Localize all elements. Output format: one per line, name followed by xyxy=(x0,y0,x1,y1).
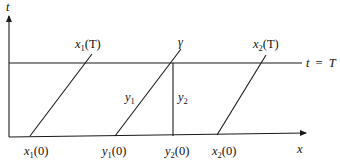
t-axis-label: t xyxy=(6,0,10,14)
x-axis-label: x xyxy=(296,142,303,156)
characteristic-line-x1 xyxy=(30,54,92,136)
x1-0-label: x1(0) xyxy=(23,144,48,160)
gamma-label: γ xyxy=(178,35,184,49)
x-axis xyxy=(9,133,306,137)
x2-T-label: x2(T) xyxy=(252,37,279,53)
x1-T-label: x1(T) xyxy=(74,37,101,53)
y1-0-label: y1(0) xyxy=(100,144,126,160)
x2-0-label: x2(0) xyxy=(211,144,236,160)
t-equals-T-label: t = T xyxy=(306,56,337,70)
y2-0-label: y2(0) xyxy=(163,144,189,160)
characteristics-diagram: t x t = T x1(T) γ x2(T) y1 y2 x1(0) y1(0… xyxy=(0,0,340,167)
characteristic-line-x2 xyxy=(217,55,266,135)
y1-segment-label: y1 xyxy=(123,90,135,106)
y2-segment-label: y2 xyxy=(176,90,188,106)
